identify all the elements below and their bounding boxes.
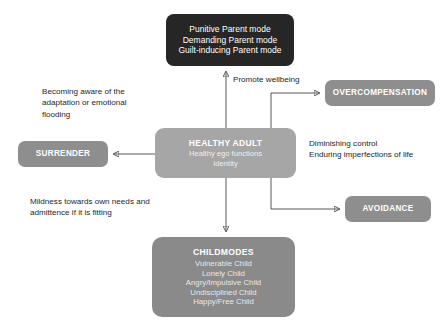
annotation-promote-wellbeing: Promote wellbeing	[233, 74, 300, 85]
annotation-diminishing-control: Diminishing control Enduring imperfectio…	[309, 138, 444, 161]
healthy-adult-identity: Identity	[213, 159, 237, 168]
annotation-becoming-aware: Becoming aware of the adaptation or emot…	[42, 86, 174, 120]
node-avoidance: AVOIDANCE	[345, 196, 431, 222]
parent-mode-demanding: Demanding Parent mode	[183, 35, 278, 45]
node-overcompensation: OVERCOMPENSATION	[325, 80, 435, 106]
node-healthy-adult: HEALTHY ADULT Healthy ego functions Iden…	[155, 128, 296, 178]
parent-mode-punitive: Punitive Parent mode	[189, 24, 270, 34]
healthy-adult-ego-functions: Healthy ego functions	[189, 149, 262, 158]
child-mode-angry-impulsive: Angry/Impulsive Child	[186, 278, 261, 288]
connector-healthyadult-to-avoidance	[271, 178, 339, 209]
avoidance-label: AVOIDANCE	[362, 204, 413, 214]
child-modes-title: CHILDMODES	[193, 247, 254, 257]
node-parent-modes: Punitive Parent mode Demanding Parent mo…	[166, 14, 294, 66]
annotation-mildness: Mildness towards own needs and admittenc…	[30, 196, 190, 219]
parent-mode-guilt-inducing: Guilt-inducing Parent mode	[178, 45, 281, 55]
schema-mode-diagram: up to Parent modes --> down to Child mod…	[0, 0, 448, 327]
healthy-adult-title: HEALTHY ADULT	[189, 138, 262, 148]
node-surrender: SURRENDER	[18, 141, 108, 167]
overcompensation-label: OVERCOMPENSATION	[333, 88, 427, 98]
connector-healthyadult-to-overcompensation	[271, 93, 319, 128]
child-mode-vulnerable: Vulnerable Child	[195, 259, 252, 269]
child-mode-undisciplined: Undisciplined Child	[190, 288, 256, 298]
child-mode-lonely: Lonely Child	[202, 269, 245, 279]
child-mode-happy-free: Happy/Free Child	[193, 297, 254, 307]
surrender-label: SURRENDER	[36, 149, 91, 159]
node-child-modes: CHILDMODES Vulnerable Child Lonely Child…	[152, 237, 295, 317]
